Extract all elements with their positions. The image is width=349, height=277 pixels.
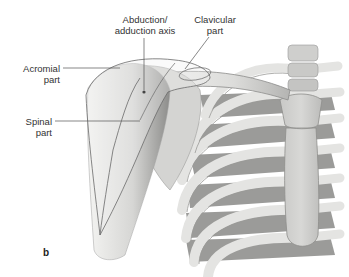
- anatomy-illustration: [0, 0, 349, 277]
- label-clavicular-part: Clavicular part: [190, 14, 240, 36]
- vertebrae: [288, 45, 318, 91]
- label-acromial-part: Acromial part: [10, 63, 60, 85]
- label-abduction-axis: Abduction/ adduction axis: [105, 14, 185, 36]
- sternum: [280, 94, 322, 246]
- deltoid-anatomy-figure: Abduction/ adduction axis Clavicular par…: [0, 0, 349, 277]
- abduction-axis-point: [142, 90, 145, 93]
- panel-letter: b: [43, 247, 49, 258]
- label-spinal-part: Spinal part: [10, 116, 52, 138]
